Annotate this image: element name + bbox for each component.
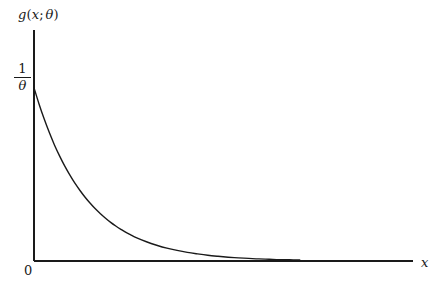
y-axis-title-function: g (18, 7, 27, 22)
fraction-numerator: 1 (14, 62, 31, 76)
origin-tick-label: 0 (24, 264, 32, 277)
x-axis-title: x (421, 256, 428, 269)
y-axis-tick-label-one-over-theta: 1 θ (14, 62, 31, 92)
y-axis-title: g(x; θ) (18, 8, 59, 21)
y-axis-title-separator: ; (39, 7, 44, 22)
fraction-denominator: θ (14, 79, 31, 93)
exponential-decay-curve (34, 88, 300, 260)
plot-area (0, 0, 436, 294)
y-axis-title-close-paren: ) (53, 7, 58, 22)
exponential-density-figure: g(x; θ) 1 θ 0 x (0, 0, 436, 294)
